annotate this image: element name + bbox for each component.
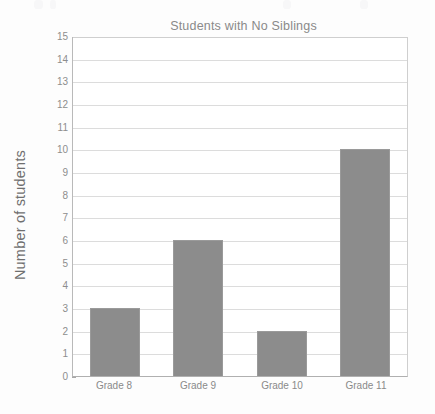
y-axis-title: Number of students [9, 140, 31, 290]
y-tick-label: 5 [48, 259, 68, 269]
y-tick-label: 14 [48, 55, 68, 65]
plot-area [72, 37, 408, 377]
y-tick-mark [72, 377, 76, 378]
x-tick-label: Grade 8 [72, 380, 156, 391]
x-tick-label: Grade 10 [240, 380, 324, 391]
scan-artifact [34, 0, 43, 9]
x-tick-label: Grade 11 [324, 380, 408, 391]
y-tick-label: 6 [48, 236, 68, 246]
chart-title: Students with No Siblings [72, 19, 415, 33]
x-axis-tick-labels: Grade 8Grade 9Grade 10Grade 11 [72, 380, 408, 391]
y-tick-label: 3 [48, 304, 68, 314]
x-tick-label: Grade 9 [156, 380, 240, 391]
bar-slot [240, 37, 324, 376]
y-tick-label: 9 [48, 168, 68, 178]
y-tick-label: 4 [48, 281, 68, 291]
bar [257, 331, 307, 376]
bar-chart: Students with No Siblings Number of stud… [0, 0, 435, 414]
bar [173, 240, 223, 376]
y-tick-label: 8 [48, 191, 68, 201]
y-axis-title-label: Number of students [12, 150, 28, 280]
scan-artifact [50, 0, 56, 9]
y-tick-label: 1 [48, 349, 68, 359]
scan-artifact [283, 0, 291, 9]
scan-artifact [360, 0, 368, 9]
y-tick-label: 7 [48, 213, 68, 223]
y-tick-label: 13 [48, 77, 68, 87]
bar [340, 149, 390, 376]
y-tick-label: 10 [48, 145, 68, 155]
y-tick-label: 11 [48, 123, 68, 133]
y-axis-tick-labels: 1514131211109876543210 [48, 37, 68, 377]
y-tick-label: 0 [48, 372, 68, 382]
bar-slot [73, 37, 157, 376]
bar [90, 308, 140, 376]
y-tick-label: 15 [48, 32, 68, 42]
y-tick-label: 2 [48, 327, 68, 337]
bar-slot [324, 37, 408, 376]
bar-series [73, 37, 407, 376]
y-tick-label: 12 [48, 100, 68, 110]
bar-slot [157, 37, 241, 376]
